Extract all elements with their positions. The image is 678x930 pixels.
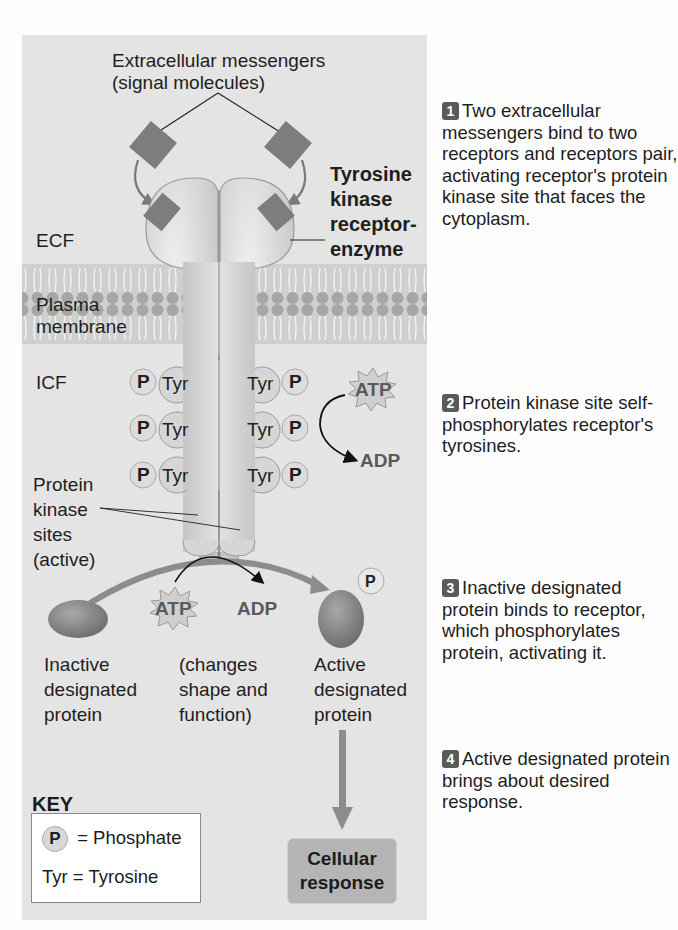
step-text: Active designated protein brings about d…	[442, 748, 670, 812]
adp-label: ADP	[237, 598, 277, 620]
plasma-membrane-label: Plasma membrane	[36, 294, 127, 338]
step-text: Protein kinase site self-phosphorylates …	[442, 392, 653, 456]
tyr-label: Tyr	[162, 373, 188, 395]
phosphate-icon: P	[42, 826, 68, 852]
step-3: 3Inactive designated protein binds to re…	[442, 577, 678, 663]
atp-label: ATP	[155, 598, 192, 620]
phosphate-icon: P	[289, 371, 302, 393]
key-tyr-row: Tyr = Tyrosine	[42, 866, 158, 888]
step-number-badge: 3	[442, 579, 459, 597]
ecf-label: ECF	[36, 230, 74, 252]
messengers-label: Extracellular messengers (signal molecul…	[112, 50, 325, 94]
receptor-enzyme-label: Tyrosine kinase receptor- enzyme	[330, 162, 417, 262]
step-number-badge: 1	[442, 102, 459, 120]
step-2: 2Protein kinase site self-phosphorylates…	[442, 392, 678, 457]
phosphate-icon: P	[137, 417, 150, 439]
tyr-label: Tyr	[247, 373, 273, 395]
active-protein-label: Active designated protein	[314, 652, 407, 727]
step-number-badge: 4	[442, 750, 459, 768]
key-phosphate-row: P = Phosphate	[42, 826, 182, 852]
phosphate-icon: P	[137, 464, 150, 486]
inactive-protein-label: Inactive designated protein	[44, 652, 137, 727]
key-box: P = Phosphate Tyr = Tyrosine	[31, 813, 201, 903]
messenger-right	[264, 121, 312, 169]
step-text: Two extracellular messengers bind to two…	[442, 100, 678, 229]
changes-label: (changes shape and function)	[179, 652, 268, 727]
phosphate-icon: P	[289, 464, 302, 486]
cellular-response-box: Cellular response	[287, 838, 397, 904]
adp-label: ADP	[360, 450, 400, 472]
phosphate-icon: P	[137, 371, 150, 393]
tyr-label: Tyr	[162, 465, 188, 487]
step-4: 4Active designated protein brings about …	[442, 748, 678, 813]
messenger-left	[129, 121, 177, 169]
step-text: Inactive designated protein binds to rec…	[442, 577, 646, 663]
tyr-label: Tyr	[162, 419, 188, 441]
icf-label: ICF	[36, 372, 67, 394]
tyr-label: Tyr	[247, 465, 273, 487]
step-number-badge: 2	[442, 394, 459, 412]
phosphate-icon: P	[365, 571, 376, 593]
atp-label: ATP	[355, 379, 392, 401]
phosphate-icon: P	[289, 417, 302, 439]
phosphate-definition: = Phosphate	[77, 827, 181, 848]
step-1: 1Two extracellular messengers bind to tw…	[442, 100, 678, 229]
inactive-protein	[48, 600, 108, 638]
active-protein	[318, 590, 364, 648]
plasma-membrane-right	[253, 264, 427, 344]
tyr-label: Tyr	[247, 419, 273, 441]
kinase-sites-label: Protein kinase sites (active)	[33, 472, 95, 572]
